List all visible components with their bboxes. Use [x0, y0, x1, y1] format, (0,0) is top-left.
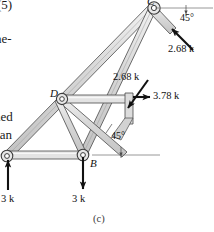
force-label-3_78: 3.78 k [153, 91, 179, 102]
joint-label-D: D [50, 88, 58, 99]
margin-fragment-line4: can [0, 128, 12, 141]
force-label-at-C: 2.68 k [168, 44, 194, 55]
joint-label-C: C [147, 0, 154, 7]
angle-label-lower-right: 45° [111, 131, 125, 141]
figure-container: (5) ne- ned can C D B 2.68 k 2.68 k 3.78… [0, 0, 214, 232]
margin-fragment-line3: ned [0, 110, 13, 123]
member-A-B [6, 151, 85, 159]
angle-label-top-right: 45° [180, 13, 194, 23]
force-label-reaction-A: 3 k [1, 194, 14, 205]
joint-label-B: B [90, 158, 97, 169]
truss-diagram-svg [0, 0, 214, 232]
member-D-horizontal [63, 95, 131, 103]
joint-D [56, 93, 67, 104]
truss-members [5, 3, 176, 159]
force-label-load-B: 3 k [72, 194, 85, 205]
margin-fragment-top: (5) [0, 0, 12, 11]
figure-caption: (c) [93, 214, 105, 225]
margin-fragment-line2: ne- [0, 32, 12, 45]
force-label-2_68: 2.68 k [113, 72, 139, 83]
